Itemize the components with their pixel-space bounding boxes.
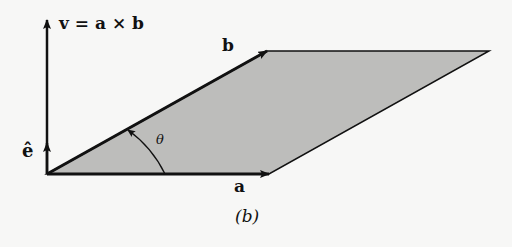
cross-product-diagram: v = a × b b a ê θ (b) [0,0,512,247]
parallelogram-area [47,51,489,174]
unit-vector-e-label: ê [22,140,33,161]
vector-a-label: a [234,176,245,196]
v-equation-label: v = a × b [59,13,144,33]
figure-caption: (b) [235,206,259,226]
vector-b-label: b [222,35,234,55]
theta-label: θ [156,132,164,147]
